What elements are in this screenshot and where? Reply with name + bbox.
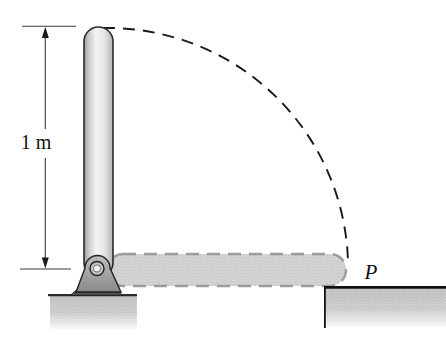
rod-initial-position — [84, 27, 113, 277]
dimension-arrow-up-icon — [42, 27, 49, 38]
rod-final-position — [107, 254, 346, 286]
ledge-texture — [325, 289, 446, 327]
ground-texture — [50, 296, 137, 329]
length-label: 1 m — [21, 131, 52, 153]
diagram-canvas: 1 m P — [0, 0, 446, 339]
pivot-pin-hole — [93, 265, 100, 272]
rod-final-texture — [107, 254, 346, 286]
point-p-label: P — [364, 260, 378, 284]
dimension-arrow-down-icon — [42, 258, 49, 269]
rod-swing-diagram: 1 m P — [0, 0, 446, 339]
ground-block — [50, 296, 137, 329]
swing-arc — [103, 28, 348, 262]
ledge-block — [325, 289, 446, 327]
